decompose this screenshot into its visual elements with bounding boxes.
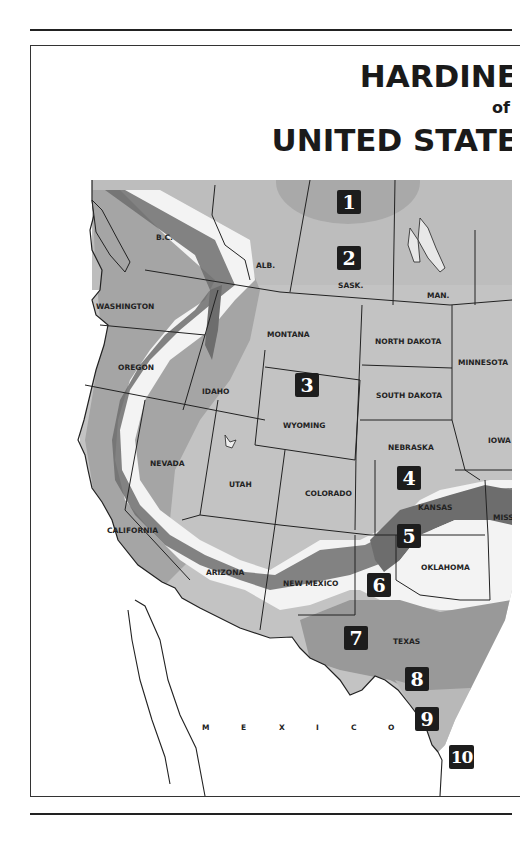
label-missouri: MISS — [493, 513, 512, 522]
label-sask: SASK. — [338, 281, 363, 290]
baja-coast-west — [128, 610, 170, 784]
label-man: MAN. — [427, 291, 450, 300]
zone-badge-1: 1 — [337, 190, 361, 214]
label-mexico-m: M — [202, 723, 209, 732]
zone-badge-10: 10 — [449, 745, 474, 769]
zone-badge-3: 3 — [295, 373, 319, 397]
label-new-mexico: NEW MEXICO — [283, 579, 338, 588]
label-utah: UTAH — [229, 480, 252, 489]
title-united-states: UNITED STATE — [272, 122, 512, 158]
label-arizona: ARIZONA — [206, 568, 244, 577]
zone-badge-9: 9 — [415, 707, 439, 731]
label-nebraska: NEBRASKA — [388, 443, 434, 452]
label-iowa: IOWA — [488, 436, 511, 445]
label-mexico-x: X — [279, 723, 285, 732]
label-texas: TEXAS — [393, 637, 420, 646]
label-alb: ALB. — [256, 261, 275, 270]
label-mexico-e: E — [241, 723, 246, 732]
label-washington: WASHINGTON — [96, 302, 154, 311]
zone-badge-2: 2 — [337, 246, 361, 270]
label-minnesota: MINNESOTA — [458, 358, 508, 367]
label-kansas: KANSAS — [418, 503, 453, 512]
label-idaho: IDAHO — [202, 387, 229, 396]
label-bc: B.C. — [156, 233, 173, 242]
zone-badge-8: 8 — [405, 667, 429, 691]
zone-badge-5: 5 — [397, 524, 421, 548]
title-block: HARDINE of UNITED STATE — [0, 0, 512, 180]
label-south-dakota: SOUTH DAKOTA — [376, 391, 442, 400]
label-oklahoma: OKLAHOMA — [421, 563, 470, 572]
bottom-rule — [30, 813, 512, 815]
title-hardiness: HARDINE — [360, 58, 512, 94]
label-north-dakota: NORTH DAKOTA — [375, 337, 442, 346]
zone-badge-6: 6 — [367, 573, 391, 597]
zone-badge-4: 4 — [397, 466, 421, 490]
label-california: CALIFORNIA — [107, 526, 158, 535]
zone-badge-7: 7 — [344, 626, 368, 650]
label-wyoming: WYOMING — [283, 421, 326, 430]
label-oregon: OREGON — [118, 363, 154, 372]
label-nevada: NEVADA — [150, 459, 185, 468]
label-mexico-o: O — [388, 723, 394, 732]
label-montana: MONTANA — [267, 330, 310, 339]
label-colorado: COLORADO — [305, 489, 352, 498]
title-of: of — [492, 98, 510, 117]
gulf-coast — [438, 752, 442, 796]
label-mexico-i: I — [316, 723, 319, 732]
label-mexico-c: C — [351, 723, 357, 732]
